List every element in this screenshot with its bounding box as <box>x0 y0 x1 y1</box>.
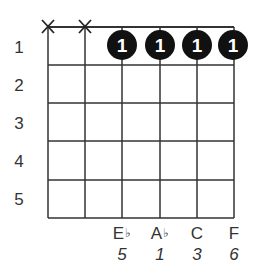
chord-diagram: 1 1 1 1 1 2 3 4 5 E♭ A♭ C F 5 1 3 6 <box>0 0 264 279</box>
interval-string-4: 1 <box>145 245 175 265</box>
finger-dot-string-3: 1 <box>107 30 137 60</box>
fret-lines <box>48 65 234 218</box>
svg-text:1: 1 <box>192 35 203 56</box>
note-name-string-3: E♭ <box>107 224 137 244</box>
svg-text:1: 1 <box>155 35 166 56</box>
finger-dot-string-4: 1 <box>145 30 175 60</box>
interval-string-6: 6 <box>219 245 249 265</box>
flat-symbol: ♭ <box>163 226 169 240</box>
interval-string-5: 3 <box>182 245 212 265</box>
flat-symbol: ♭ <box>125 226 131 240</box>
finger-dot-string-6: 1 <box>218 30 248 60</box>
finger-dot-string-5: 1 <box>182 30 212 60</box>
fret-label-4: 4 <box>12 152 26 172</box>
note-name-string-5: C <box>182 224 212 244</box>
fret-label-5: 5 <box>12 190 26 210</box>
fret-label-3: 3 <box>12 114 26 134</box>
note-name-string-6: F <box>219 224 249 244</box>
svg-text:1: 1 <box>117 35 128 56</box>
fret-label-1: 1 <box>12 38 26 58</box>
interval-string-3: 5 <box>107 245 137 265</box>
fret-label-2: 2 <box>12 76 26 96</box>
svg-text:1: 1 <box>228 35 239 56</box>
note-name-string-4: A♭ <box>145 224 175 244</box>
